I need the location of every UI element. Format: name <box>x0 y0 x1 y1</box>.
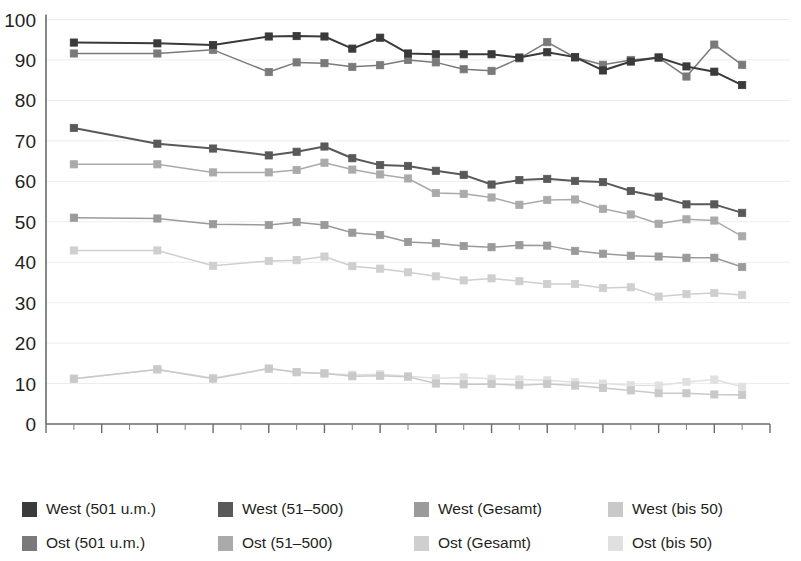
legend-item[interactable]: West (Gesamt) <box>414 492 542 526</box>
series-marker <box>265 33 272 40</box>
series-west-51-500 <box>70 124 746 216</box>
series-marker <box>739 391 746 398</box>
legend-item[interactable]: West (51–500) <box>218 492 343 526</box>
series-marker <box>460 242 467 249</box>
series-marker <box>655 293 662 300</box>
series-marker <box>683 254 690 261</box>
series-marker <box>683 73 690 80</box>
x-tick-label: 2004 <box>363 438 398 440</box>
series-marker <box>377 372 384 379</box>
series-marker <box>265 169 272 176</box>
series-marker <box>70 214 77 221</box>
series-marker <box>739 61 746 68</box>
series-marker <box>711 217 718 224</box>
legend-label: West (bis 50) <box>632 500 723 518</box>
series-marker <box>683 291 690 298</box>
x-tick-label: 2006 <box>419 438 453 440</box>
series-marker <box>488 380 495 387</box>
legend-item[interactable]: Ost (bis 50) <box>608 526 712 560</box>
series-marker <box>544 196 551 203</box>
y-tick-label: 50 <box>15 212 36 233</box>
legend-item[interactable]: Ost (51–500) <box>218 526 332 560</box>
series-marker <box>627 187 634 194</box>
series-marker <box>349 45 356 52</box>
series-marker <box>460 171 467 178</box>
series-marker <box>488 275 495 282</box>
chart-container: 0102030405060708090100199219941996199820… <box>0 0 801 561</box>
legend-label: Ost (bis 50) <box>632 534 712 552</box>
series-marker <box>404 175 411 182</box>
series-marker <box>711 201 718 208</box>
series-marker <box>739 383 746 390</box>
series-marker <box>265 152 272 159</box>
y-tick-label: 70 <box>15 131 36 152</box>
series-marker <box>683 201 690 208</box>
y-tick-label: 60 <box>15 171 36 192</box>
series-marker <box>460 66 467 73</box>
series-marker <box>377 162 384 169</box>
series-marker <box>739 233 746 240</box>
series-marker <box>321 143 328 150</box>
series-marker <box>404 162 411 169</box>
legend-item[interactable]: Ost (Gesamt) <box>414 526 531 560</box>
legend-item[interactable]: West (501 u.m.) <box>22 492 156 526</box>
series-marker <box>655 220 662 227</box>
series-marker <box>627 387 634 394</box>
series-marker <box>571 177 578 184</box>
series-marker <box>571 382 578 389</box>
series-marker <box>627 252 634 259</box>
series-marker <box>293 148 300 155</box>
series-marker <box>349 155 356 162</box>
series-marker <box>154 50 161 57</box>
legend-item[interactable]: West (bis 50) <box>608 492 723 526</box>
series-marker <box>209 41 216 48</box>
y-tick-label: 20 <box>15 333 36 354</box>
legend-item[interactable]: Ost (501 u.m.) <box>22 526 145 560</box>
series-marker <box>683 216 690 223</box>
series-marker <box>711 254 718 261</box>
series-marker <box>432 240 439 247</box>
series-marker <box>571 54 578 61</box>
series-marker <box>404 238 411 245</box>
legend-swatch-icon <box>218 502 233 517</box>
series-marker <box>349 229 356 236</box>
series-marker <box>460 374 467 381</box>
series-marker <box>265 257 272 264</box>
series-marker <box>209 262 216 269</box>
series-marker <box>488 51 495 58</box>
series-marker <box>349 166 356 173</box>
series-marker <box>404 269 411 276</box>
legend-swatch-icon <box>608 536 623 551</box>
series-marker <box>683 390 690 397</box>
legend-label: West (51–500) <box>242 500 343 518</box>
series-marker <box>655 390 662 397</box>
x-tick-label: 1998 <box>196 438 230 440</box>
series-marker <box>70 50 77 57</box>
series-marker <box>321 60 328 67</box>
series-marker <box>349 63 356 70</box>
series-marker <box>321 370 328 377</box>
series-marker <box>154 140 161 147</box>
series-marker <box>293 166 300 173</box>
series-marker <box>516 201 523 208</box>
series-marker <box>293 219 300 226</box>
series-marker <box>209 169 216 176</box>
y-tick-labels: 0102030405060708090100 <box>4 10 36 436</box>
series-marker <box>460 381 467 388</box>
series-marker <box>209 375 216 382</box>
x-tick-label: 2008 <box>474 438 508 440</box>
series-marker <box>739 291 746 298</box>
series-marker <box>293 59 300 66</box>
series-marker <box>655 193 662 200</box>
series-marker <box>544 380 551 387</box>
series-marker <box>599 67 606 74</box>
series-marker <box>655 253 662 260</box>
series-marker <box>599 384 606 391</box>
series-marker <box>377 34 384 41</box>
y-tick-label: 40 <box>15 252 36 273</box>
x-tick-label: 2014 <box>641 438 676 440</box>
y-tick-label: 100 <box>4 10 36 31</box>
legend-row-ost: Ost (501 u.m.)Ost (51–500)Ost (Gesamt)Os… <box>0 526 801 560</box>
series-marker <box>683 63 690 70</box>
series-marker <box>432 167 439 174</box>
